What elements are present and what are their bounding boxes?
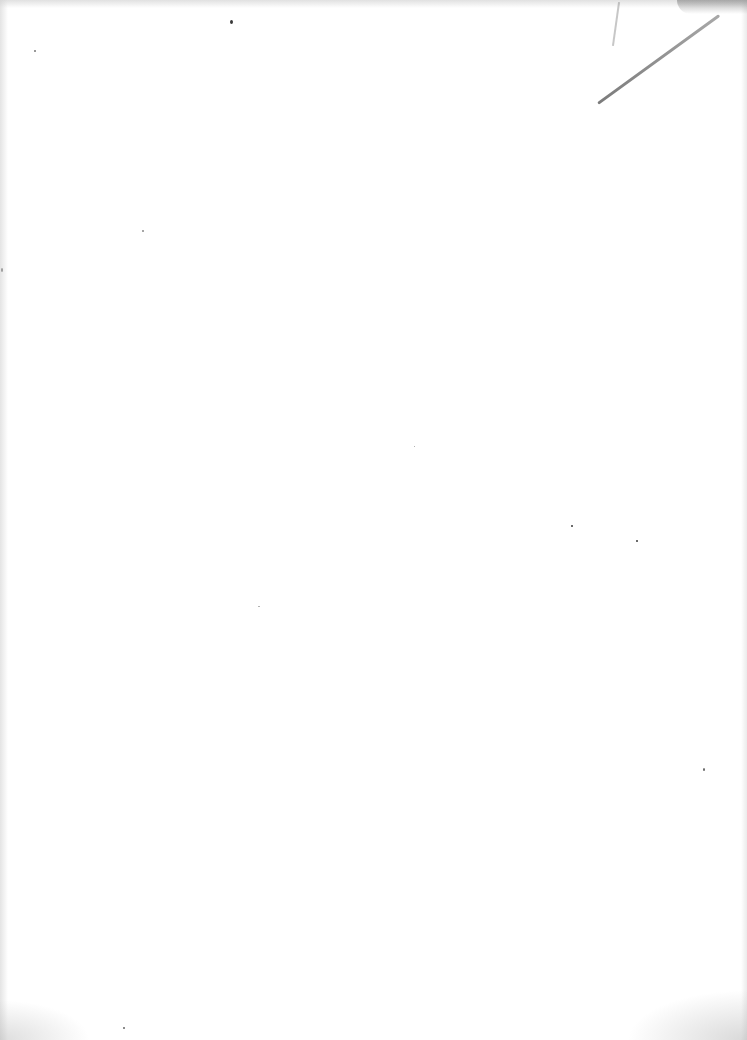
corner-smudge-bottom-right — [627, 990, 747, 1040]
speck-mark — [571, 525, 573, 527]
speck-mark — [636, 540, 638, 542]
speck-mark — [1, 268, 3, 272]
scan-edge-left — [0, 0, 8, 1040]
pencil-faint-mark — [612, 2, 620, 46]
corner-smudge-bottom-left — [0, 1000, 90, 1040]
speck-mark — [230, 20, 233, 24]
blank-document-page — [0, 0, 747, 1040]
scan-edge-right — [741, 0, 747, 1040]
scan-edge-top — [0, 0, 747, 8]
speck-mark — [142, 230, 144, 232]
speck-mark — [34, 50, 36, 52]
speck-mark — [703, 768, 705, 771]
corner-smudge-top-right — [677, 0, 747, 14]
speck-mark — [123, 1027, 125, 1029]
speck-mark — [258, 606, 260, 607]
speck-mark — [414, 446, 415, 447]
